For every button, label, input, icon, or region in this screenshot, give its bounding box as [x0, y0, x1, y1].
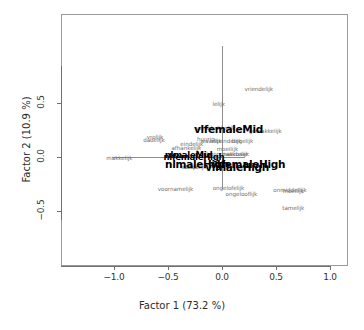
word-label: ongelooflijk	[226, 193, 258, 199]
y-axis-title: Factor 2 (10.9 %)	[21, 50, 32, 230]
x-axis-line	[61, 266, 331, 267]
x-tick-label: −0.5	[151, 272, 185, 282]
factor-analysis-biplot: −1.0−0.50.00.51.0 0.50.0−0.5 vriendelijk…	[0, 0, 364, 330]
y-tick-label: 0.5	[36, 89, 46, 115]
x-tick-label: −1.0	[97, 272, 131, 282]
x-tick-mark	[276, 266, 277, 270]
word-label: voornamelijk	[158, 187, 194, 193]
word-label: makkelijk	[106, 156, 132, 162]
y-tick-mark	[57, 157, 61, 158]
group-label: vlmaleHigh	[205, 161, 269, 172]
x-tick-mark	[222, 266, 223, 270]
word-label: begelijk	[232, 140, 254, 146]
x-tick-label: 0.0	[205, 272, 239, 282]
x-tick-mark	[168, 266, 169, 270]
word-label: dadelijk	[143, 139, 164, 145]
x-tick-mark	[330, 266, 331, 270]
y-tick-label: 0.0	[36, 143, 46, 169]
word-label: moeilijk	[283, 189, 304, 195]
y-tick-mark	[57, 103, 61, 104]
word-label: lelijk	[212, 102, 225, 108]
x-tick-label: 1.0	[313, 272, 347, 282]
y-axis-line	[61, 66, 62, 220]
x-tick-label: 0.5	[259, 272, 293, 282]
group-label: vlfemaleMid	[194, 124, 263, 135]
y-tick-label: −0.5	[36, 197, 46, 223]
x-axis-title: Factor 1 (73.2 %)	[0, 300, 364, 311]
word-label: tamelijk	[282, 207, 304, 213]
y-tick-mark	[57, 211, 61, 212]
word-label: vriendelijk	[244, 87, 273, 93]
x-tick-mark	[114, 266, 115, 270]
